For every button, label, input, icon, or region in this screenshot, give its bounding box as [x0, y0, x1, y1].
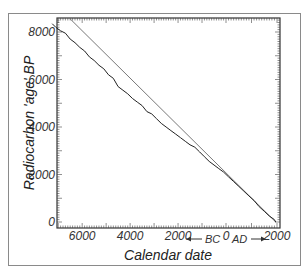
ad-label: AD — [231, 233, 247, 245]
y-axis-title: Radiocarbon 'age' BP — [21, 55, 37, 190]
y-tick-label: 0 — [48, 215, 55, 229]
x-axis-title: Calendar date — [124, 247, 212, 263]
radiocarbon-calibration-chart: 02000400060008000 60004000200002000 BC A… — [0, 0, 306, 272]
x-tick-label: 2000 — [164, 229, 192, 243]
axis-ticks — [57, 18, 280, 228]
x-tick-label: 2000 — [263, 229, 291, 243]
x-tick-label: 4000 — [117, 229, 144, 243]
calibration-curve — [52, 24, 276, 222]
x-tick-label: 0 — [223, 229, 230, 243]
bc-label: BC — [205, 233, 220, 245]
x-tick-label: 6000 — [69, 229, 96, 243]
y-tick-label: 8000 — [28, 25, 55, 39]
x-tick-labels: 60004000200002000 — [69, 229, 291, 243]
plot-area — [57, 18, 280, 228]
